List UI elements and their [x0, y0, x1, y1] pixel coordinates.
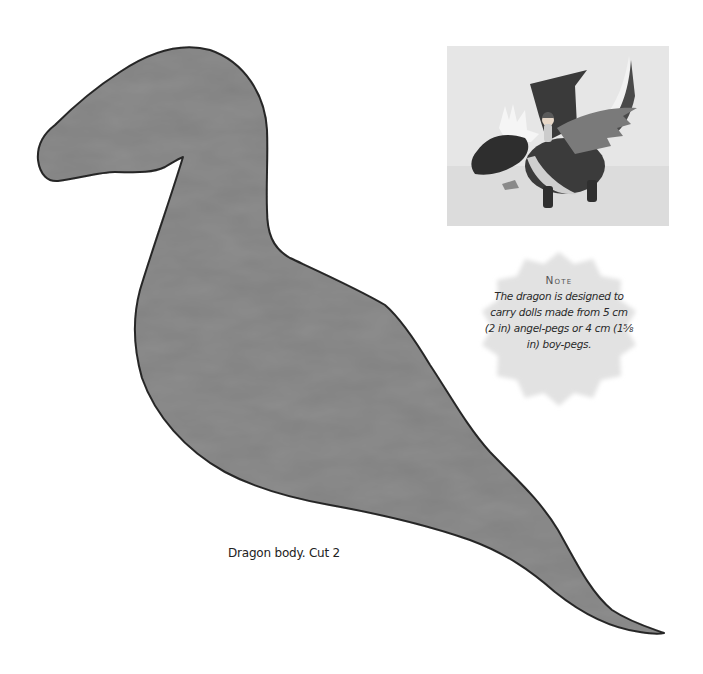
dragon-photo-illustration	[447, 46, 669, 226]
note-badge: Note The dragon is designed to carry dol…	[476, 248, 642, 412]
note-title: Note	[476, 274, 642, 286]
note-body: The dragon is designed to carry dolls ma…	[476, 288, 642, 352]
finished-dragon-photo	[447, 46, 669, 226]
pattern-caption: Dragon body. Cut 2	[228, 546, 340, 560]
note-text-block: Note The dragon is designed to carry dol…	[476, 274, 642, 352]
